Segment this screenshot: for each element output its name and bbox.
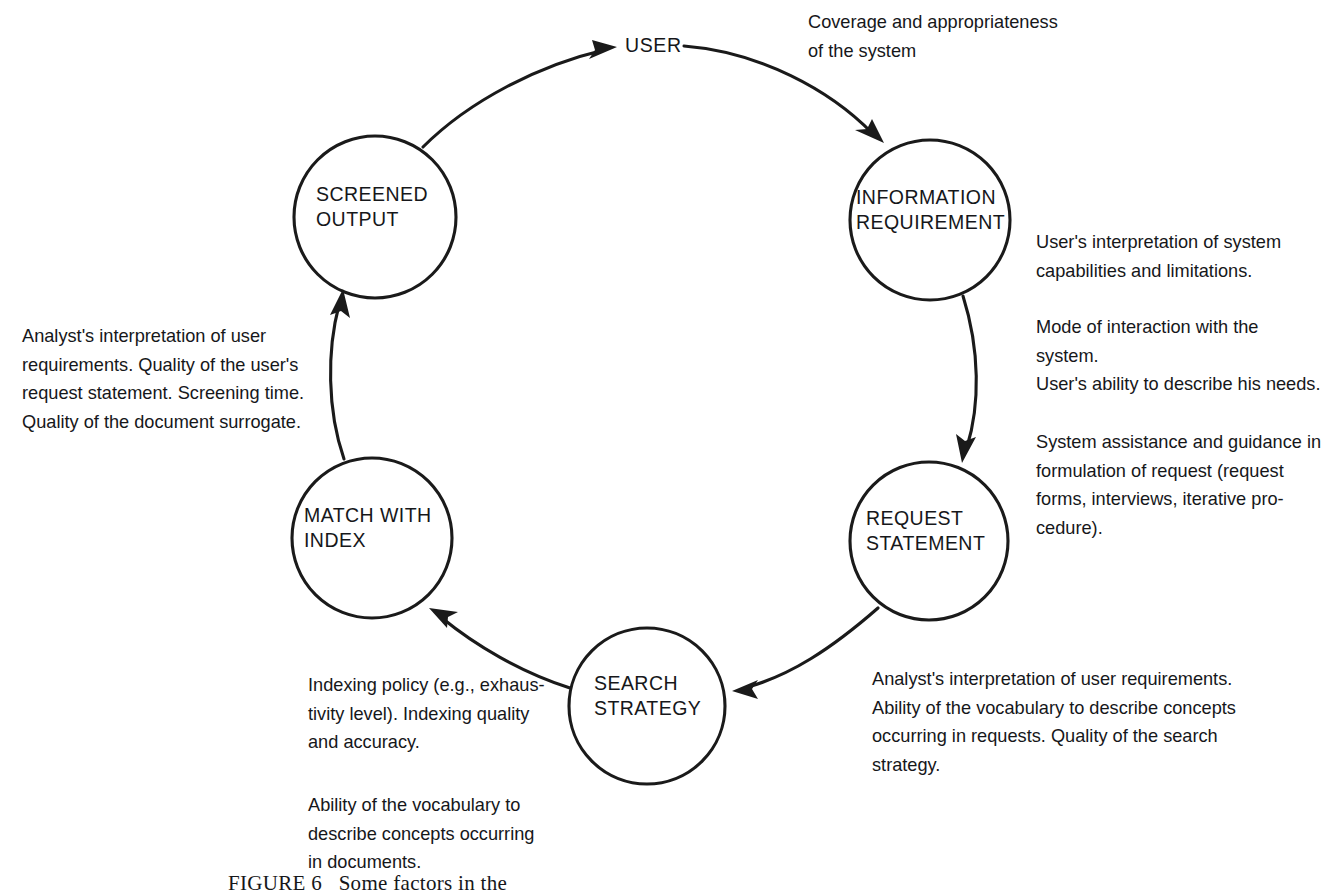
arrow-head-icon [330, 289, 350, 318]
annotation-indexing-policy: Indexing policy (e.g., exhaus- tivity le… [308, 671, 573, 757]
arrow-head-icon [429, 608, 458, 628]
figure-caption: FIGURE 6 Some factors in the [228, 871, 507, 894]
node-label-screened-output: SCREENED OUTPUT [316, 182, 428, 232]
arrow-request-statement-to-search-strategy [732, 608, 878, 699]
annotation-analyst-interpretation-request: Analyst's interpretation of user require… [872, 665, 1312, 779]
node-circle-match-with-index[interactable] [292, 458, 452, 618]
annotation-coverage: Coverage and appropriateness of the syst… [808, 8, 1118, 65]
annotation-user-ability: User's ability to describe his needs. [1036, 370, 1330, 399]
arrow-head-icon [956, 434, 976, 463]
node-label-user: USER [625, 34, 682, 57]
node-circle-request-statement[interactable] [850, 462, 1008, 620]
arrow-head-icon [589, 40, 617, 59]
arrow-head-icon [732, 680, 758, 699]
arrow-head-icon [855, 119, 884, 143]
node-label-match-with-index: MATCH WITH INDEX [304, 503, 432, 553]
arrow-screened-output-to-user [423, 40, 617, 147]
annotation-vocabulary-documents: Ability of the vocabulary to describe co… [308, 791, 573, 877]
arrow-information-requirement-to-request-statement [956, 296, 976, 463]
node-circle-search-strategy[interactable] [569, 628, 725, 784]
annotation-mode-of-interaction: Mode of interaction with the system. [1036, 313, 1330, 370]
annotation-user-interpretation: User's interpretation of system capabili… [1036, 228, 1330, 285]
node-label-search-strategy: SEARCH STRATEGY [594, 671, 701, 721]
annotation-system-assistance: System assistance and guidance in formul… [1036, 428, 1330, 542]
node-circle-information-requirement[interactable] [850, 140, 1010, 300]
annotation-analyst-interpretation-output: Analyst's interpretation of user require… [22, 322, 342, 436]
node-label-information-requirement: INFORMATION REQUIREMENT [856, 185, 1005, 235]
node-circle-screened-output[interactable] [294, 136, 456, 298]
node-label-request-statement: REQUEST STATEMENT [866, 506, 985, 556]
